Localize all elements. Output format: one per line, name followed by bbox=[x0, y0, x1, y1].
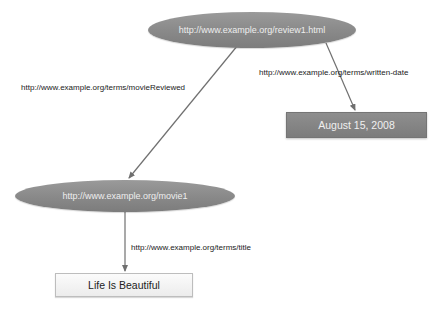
rdf-diagram: http://www.example.org/review1.html http… bbox=[0, 0, 441, 312]
node-date-label: August 15, 2008 bbox=[318, 119, 394, 131]
edge-label-title: http://www.example.org/terms/title bbox=[131, 243, 251, 252]
edge-movie-reviewed bbox=[129, 45, 238, 178]
node-movie1: http://www.example.org/movie1 bbox=[15, 180, 235, 212]
edge-label-written-date: http://www.example.org/terms/written-dat… bbox=[259, 68, 408, 77]
node-title-literal: Life Is Beautiful bbox=[55, 273, 193, 297]
node-written-date-literal: August 15, 2008 bbox=[286, 112, 427, 138]
edge-label-movie-reviewed: http://www.example.org/terms/movieReview… bbox=[21, 83, 185, 92]
node-movie1-label: http://www.example.org/movie1 bbox=[62, 191, 187, 201]
node-review1: http://www.example.org/review1.html bbox=[148, 12, 356, 48]
node-title-label: Life Is Beautiful bbox=[88, 279, 160, 291]
node-review1-label: http://www.example.org/review1.html bbox=[179, 25, 326, 35]
